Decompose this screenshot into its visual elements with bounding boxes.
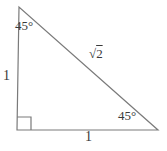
- right-angle-marker: [17, 117, 31, 130]
- left-side-label: 1: [3, 69, 10, 83]
- radicand: 2: [96, 46, 103, 61]
- top-angle-label: 45°: [15, 19, 33, 32]
- bottom-side-label: 1: [85, 130, 92, 144]
- triangle-figure: 45° 45° √2 1 1: [0, 0, 167, 151]
- triangle-outline: [17, 7, 158, 130]
- hypotenuse-label: √2: [89, 47, 103, 60]
- bottom-right-angle-label: 45°: [118, 109, 136, 122]
